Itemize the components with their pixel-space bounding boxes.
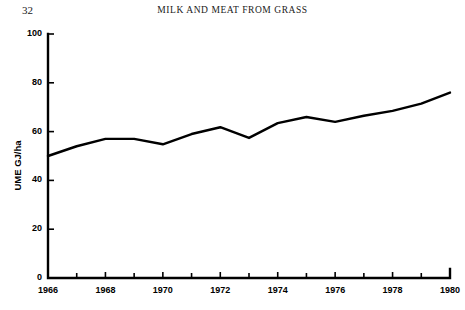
page-canvas: 32 MILK AND MEAT FROM GRASS UME GJ/ha 02… [0, 0, 465, 310]
x-tick-label: 1968 [85, 285, 125, 295]
axis-lines [48, 34, 450, 278]
y-tick-label: 40 [2, 174, 42, 184]
data-series-group [48, 93, 450, 156]
data-line-ume [48, 93, 450, 156]
x-tick-label: 1972 [200, 285, 240, 295]
x-tick-label: 1978 [373, 285, 413, 295]
x-tick-label: 1976 [315, 285, 355, 295]
chart-figure: UME GJ/ha 020406080100 19661968197019721… [0, 0, 465, 310]
x-tick-label: 1980 [430, 285, 465, 295]
y-tick-label: 60 [2, 126, 42, 136]
x-tick-label: 1974 [258, 285, 298, 295]
y-tick-label: 100 [2, 28, 42, 38]
line-chart-svg [0, 0, 465, 310]
y-tick-label: 80 [2, 77, 42, 87]
y-tick-label: 0 [2, 272, 42, 282]
x-tick-label: 1970 [143, 285, 183, 295]
y-tick-label: 20 [2, 223, 42, 233]
axis-frame [48, 34, 450, 278]
axis-ticks [48, 34, 450, 278]
x-tick-label: 1966 [28, 285, 68, 295]
